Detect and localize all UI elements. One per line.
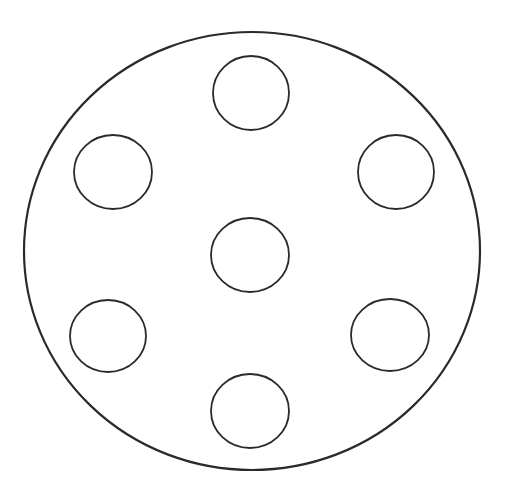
inner-circle-upper-right — [358, 135, 434, 209]
circle-diagram — [0, 0, 508, 487]
inner-circle-top — [213, 56, 289, 130]
outer-circle — [24, 32, 480, 470]
inner-circle-lower-right — [351, 299, 429, 371]
inner-circle-bottom — [211, 374, 289, 448]
inner-circle-center — [211, 218, 289, 292]
inner-circle-upper-left — [74, 135, 152, 209]
inner-circles-group — [70, 56, 434, 448]
inner-circle-lower-left — [70, 300, 146, 372]
